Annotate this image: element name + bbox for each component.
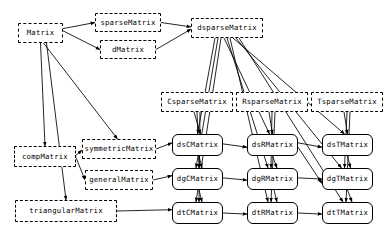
class-node-label: dtCMatrix: [177, 209, 218, 216]
class-node-label: dgTMatrix: [327, 175, 368, 182]
class-node-dtRMatrix[interactable]: dtRMatrix: [247, 202, 298, 224]
class-node-label: dsparseMatrix: [197, 24, 257, 31]
edge-dtRMatrix-to-dtTMatrix: [298, 213, 322, 214]
class-node-label: dsCMatrix: [177, 141, 218, 148]
class-node-label: sparseMatrix: [100, 19, 155, 26]
edge-dsparseMatrix-to-dsTMatrix: [233, 38, 345, 134]
edge-symmetricMatrix-to-dsCMatrix: [156, 143, 172, 149]
class-node-dsTMatrix[interactable]: dsTMatrix: [322, 134, 373, 156]
edge-triangularMatrix-to-dtCMatrix: [117, 210, 172, 211]
class-node-label: dtTMatrix: [327, 209, 368, 216]
edge-dsCMatrix-to-dsRMatrix: [223, 144, 247, 147]
class-node-label: TsparseMatrix: [317, 98, 377, 105]
edge-dsRMatrix-to-dsTMatrix: [298, 143, 322, 147]
class-node-triangularMatrix[interactable]: triangularMatrix: [15, 200, 117, 222]
class-node-label: generalMatrix: [89, 176, 149, 183]
edge-Matrix-to-compMatrix: [41, 43, 46, 146]
class-node-dtCMatrix[interactable]: dtCMatrix: [172, 202, 223, 224]
class-node-compMatrix[interactable]: compMatrix: [14, 146, 76, 167]
class-node-dgCMatrix[interactable]: dgCMatrix: [172, 168, 223, 190]
class-node-RsparseMatrix[interactable]: RsparseMatrix: [236, 92, 308, 112]
class-node-symmetricMatrix[interactable]: symmetricMatrix: [82, 139, 156, 159]
edge-generalMatrix-to-dgCMatrix: [153, 176, 172, 180]
class-node-dgRMatrix[interactable]: dgRMatrix: [247, 168, 298, 190]
class-node-label: dgCMatrix: [177, 175, 218, 182]
class-node-Matrix[interactable]: Matrix: [18, 23, 63, 43]
class-node-label: CsparseMatrix: [167, 98, 227, 105]
edge-dgTMatrix-to-dtTMatrix: [348, 190, 353, 202]
class-node-dMatrix[interactable]: dMatrix: [100, 40, 156, 59]
edge-sparseMatrix-to-dsparseMatrix: [161, 23, 191, 27]
edge-dtCMatrix-to-dtRMatrix: [223, 213, 247, 214]
class-node-dsRMatrix[interactable]: dsRMatrix: [247, 134, 298, 156]
edge-dgRMatrix-to-dtRMatrix: [274, 190, 277, 202]
class-node-dtTMatrix[interactable]: dtTMatrix: [322, 202, 373, 224]
edge-Matrix-to-triangularMatrix: [47, 43, 67, 200]
class-node-label: dtRMatrix: [252, 209, 293, 216]
edge-Matrix-to-sparseMatrix: [63, 23, 95, 29]
edge-dMatrix-to-dsparseMatrix: [156, 29, 191, 49]
class-node-label: symmetricMatrix: [85, 145, 154, 152]
class-node-label: triangularMatrix: [29, 207, 103, 214]
class-node-label: dgRMatrix: [252, 175, 293, 182]
class-node-label: dMatrix: [112, 46, 144, 53]
class-diagram-canvas: MatrixsparseMatrixdMatrixdsparseMatrixCs…: [0, 0, 389, 237]
class-node-TsparseMatrix[interactable]: TsparseMatrix: [311, 92, 383, 112]
class-node-dsCMatrix[interactable]: dsCMatrix: [172, 134, 223, 156]
class-node-label: Matrix: [27, 29, 55, 36]
class-node-generalMatrix[interactable]: generalMatrix: [85, 170, 153, 190]
class-node-label: dsRMatrix: [252, 141, 293, 148]
class-node-label: dsTMatrix: [327, 141, 368, 148]
edge-Matrix-to-dMatrix: [63, 31, 100, 50]
edge-compMatrix-to-generalMatrix: [76, 158, 85, 180]
edge-dsparseMatrix-to-dsRMatrix: [224, 38, 270, 134]
class-node-dgTMatrix[interactable]: dgTMatrix: [322, 168, 373, 190]
class-node-CsparseMatrix[interactable]: CsparseMatrix: [161, 92, 233, 112]
class-node-sparseMatrix[interactable]: sparseMatrix: [95, 13, 161, 32]
class-node-dsparseMatrix[interactable]: dsparseMatrix: [191, 18, 263, 38]
class-node-label: compMatrix: [22, 153, 68, 160]
edge-dgCMatrix-to-dgRMatrix: [223, 178, 247, 180]
class-node-label: RsparseMatrix: [242, 98, 302, 105]
